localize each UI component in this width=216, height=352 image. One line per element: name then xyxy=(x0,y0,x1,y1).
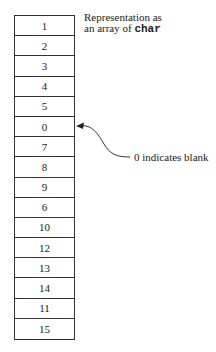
blank-annotation: 0 indicates blank xyxy=(134,151,209,163)
annotation-arrow-icon xyxy=(0,0,216,352)
